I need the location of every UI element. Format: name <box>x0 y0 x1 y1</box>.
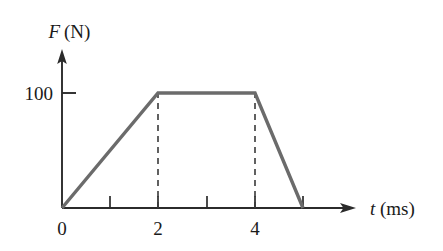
figure-container: F (N) t (ms) 100 0 2 4 <box>0 0 443 251</box>
x-tick-label-4: 4 <box>250 218 260 239</box>
x-axis-label-variable: t <box>370 198 376 219</box>
y-axis-label-unit: (N) <box>64 21 90 43</box>
x-tick-label-2: 2 <box>153 218 163 239</box>
force-time-chart: F (N) t (ms) 100 0 2 4 <box>0 0 443 251</box>
x-tick-label-0: 0 <box>57 218 67 239</box>
y-axis-label-variable: F <box>47 21 60 42</box>
y-tick-label-100: 100 <box>25 83 54 104</box>
x-axis-label-unit: (ms) <box>380 198 415 220</box>
